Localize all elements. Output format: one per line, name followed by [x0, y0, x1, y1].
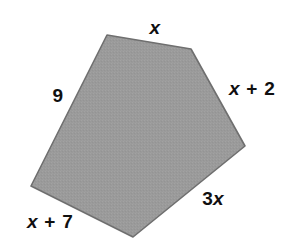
side-label-right: x + 2 — [229, 79, 275, 98]
side-label-left: 9 — [53, 86, 64, 105]
side-label-left-text: 9 — [53, 85, 64, 106]
side-label-top: x — [150, 18, 161, 37]
polygon-figure-svg — [0, 0, 291, 239]
side-label-lower-right-text: 3x — [202, 188, 224, 209]
side-label-top-text: x — [150, 17, 161, 38]
geometry-figure: x x + 2 3x x + 7 9 — [0, 0, 291, 239]
side-label-right-text: x + 2 — [229, 78, 275, 99]
side-label-bottom-left: x + 7 — [27, 212, 73, 231]
side-label-lower-right: 3x — [202, 189, 224, 208]
side-label-bottom-left-text: x + 7 — [27, 211, 73, 232]
